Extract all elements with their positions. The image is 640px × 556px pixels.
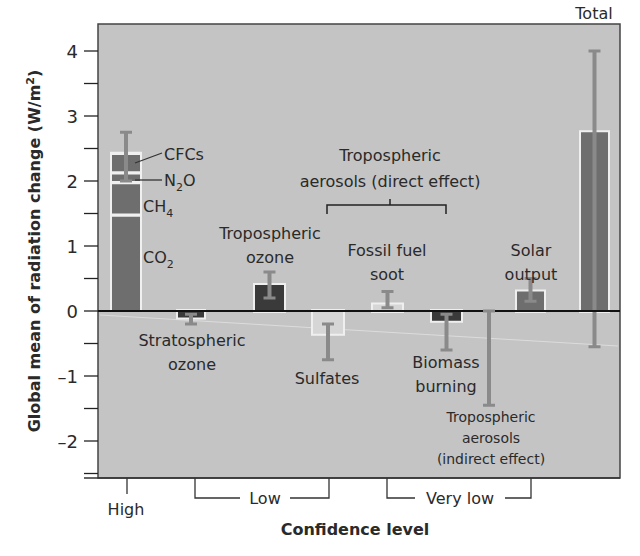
label-aerosols-indirect-2: aerosols (462, 430, 520, 446)
y-tick-label: 1 (67, 236, 78, 257)
label-aerosols-indirect-1: Tropospheric (446, 409, 536, 425)
x-axis (84, 478, 620, 498)
label-trop-ozone-1: Tropospheric (218, 224, 321, 243)
label-solar-2: output (505, 265, 558, 284)
label-soot-1: Fossil fuel (347, 241, 426, 260)
confidence-high: High (108, 500, 145, 519)
confidence-low: Low (249, 489, 281, 508)
label-aerosols-direct-2: aerosols (direct effect) (300, 172, 481, 191)
label-trop-ozone-2: ozone (246, 248, 294, 267)
label-soot-2: soot (370, 265, 404, 284)
label-aerosols-indirect-3: (indirect effect) (437, 451, 545, 467)
y-axis-label: Global mean of radiation change (W/m2) (24, 70, 44, 433)
label-sulfates: Sulfates (295, 369, 360, 388)
y-tick-label: 2 (67, 171, 78, 192)
bar-greenhouse-gases (110, 132, 142, 311)
label-cfcs: CFCs (164, 145, 204, 164)
radiative-forcing-chart: –2–101234 Global mean of radiation chang… (0, 0, 640, 556)
y-axis: –2–101234 (58, 41, 98, 474)
label-strat-ozone-2: ozone (168, 355, 216, 374)
y-tick-label: 4 (67, 41, 78, 62)
y-tick-label: –2 (58, 431, 78, 452)
label-strat-ozone-1: Stratospheric (138, 331, 245, 350)
label-biomass-2: burning (415, 377, 476, 396)
y-tick-label: 0 (67, 301, 78, 322)
y-tick-label: –1 (58, 366, 78, 387)
confidence-very-low: Very low (426, 489, 494, 508)
label-biomass-1: Biomass (412, 353, 479, 372)
label-total: Total (574, 4, 612, 23)
y-tick-label: 3 (67, 106, 78, 127)
label-aerosols-direct-1: Tropospheric (338, 146, 441, 165)
label-solar-1: Solar (511, 241, 552, 260)
x-axis-label: Confidence level (281, 520, 430, 539)
